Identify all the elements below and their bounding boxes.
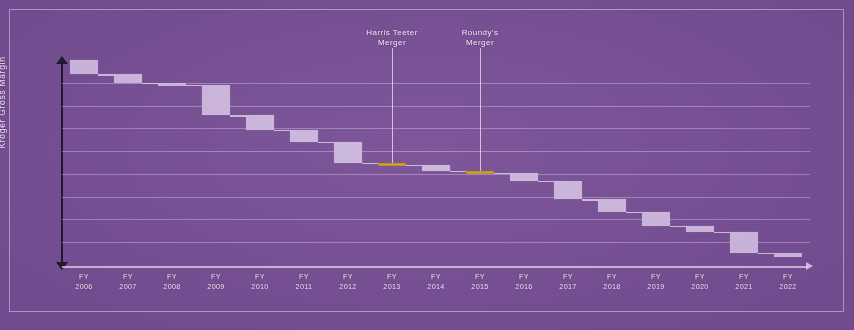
x-axis-tick-label: FY2019 [636, 272, 676, 291]
waterfall-connector [626, 212, 643, 213]
waterfall-bar[interactable] [554, 181, 581, 199]
waterfall-connector [494, 173, 511, 174]
gridline [62, 128, 810, 129]
waterfall-connector [318, 142, 335, 143]
waterfall-bar[interactable] [70, 60, 97, 74]
x-axis-tick-label: FY2022 [768, 272, 808, 291]
waterfall-connector [450, 171, 467, 172]
waterfall-bar[interactable] [158, 83, 185, 87]
waterfall-bar[interactable] [202, 85, 229, 116]
gridline [62, 106, 810, 107]
waterfall-connector [406, 165, 423, 166]
x-axis-tick-label: FY2010 [240, 272, 280, 291]
waterfall-bar[interactable] [290, 130, 317, 142]
waterfall-bar[interactable] [114, 74, 141, 82]
waterfall-bar[interactable] [642, 212, 669, 226]
waterfall-bar-highlighted[interactable] [466, 171, 493, 175]
annotation-label: Roundy's Merger [420, 28, 540, 48]
waterfall-connector [142, 83, 159, 84]
plot-area [62, 60, 810, 265]
waterfall-connector [274, 130, 291, 131]
waterfall-connector [670, 226, 687, 227]
x-axis-tick-label: FY2006 [64, 272, 104, 291]
x-axis-tick-label: FY2007 [108, 272, 148, 291]
waterfall-bar[interactable] [334, 142, 361, 163]
x-axis-tick-label: FY2018 [592, 272, 632, 291]
y-axis-title: Kroger Gross Margin [0, 0, 10, 205]
x-axis-tick-label: FY2009 [196, 272, 236, 291]
annotation-leader-line [392, 48, 393, 163]
waterfall-connector [186, 85, 203, 86]
x-axis-tick-label: FY2021 [724, 272, 764, 291]
waterfall-connector [98, 74, 115, 75]
waterfall-connector [230, 115, 247, 116]
waterfall-connector [714, 232, 731, 233]
chart-canvas: Kroger Gross Margin Harris Teeter Merger… [0, 0, 854, 330]
x-axis-tick-label: FY2008 [152, 272, 192, 291]
x-axis-tick-label: FY2016 [504, 272, 544, 291]
waterfall-bar[interactable] [246, 115, 273, 129]
waterfall-bar[interactable] [774, 253, 801, 257]
x-axis-tick-label: FY2012 [328, 272, 368, 291]
gridline [62, 242, 810, 243]
waterfall-bar[interactable] [730, 232, 757, 253]
x-axis-tick-label: FY2015 [460, 272, 500, 291]
x-axis-tick-label: FY2014 [416, 272, 456, 291]
gridline [62, 151, 810, 152]
x-axis-tick-label: FY2017 [548, 272, 588, 291]
waterfall-bar[interactable] [686, 226, 713, 232]
waterfall-connector [758, 253, 775, 254]
waterfall-connector [582, 199, 599, 200]
annotation-leader-line [480, 48, 481, 171]
x-axis-tick-label: FY2011 [284, 272, 324, 291]
x-axis-line [62, 266, 808, 268]
waterfall-bar-highlighted[interactable] [378, 163, 405, 167]
waterfall-connector [362, 163, 379, 164]
gridline [62, 174, 810, 175]
waterfall-bar[interactable] [598, 199, 625, 211]
waterfall-bar[interactable] [422, 165, 449, 171]
x-axis-tick-label: FY2020 [680, 272, 720, 291]
gridline [62, 197, 810, 198]
x-axis-tick-label: FY2013 [372, 272, 412, 291]
waterfall-connector [538, 181, 555, 182]
gridline [62, 219, 810, 220]
waterfall-bar[interactable] [510, 173, 537, 181]
